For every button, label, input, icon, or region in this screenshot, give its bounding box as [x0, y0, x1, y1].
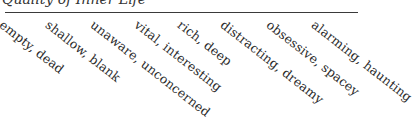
scale-axis-rule [5, 12, 358, 13]
scale-title: Quality of Inner Life [2, 0, 146, 7]
